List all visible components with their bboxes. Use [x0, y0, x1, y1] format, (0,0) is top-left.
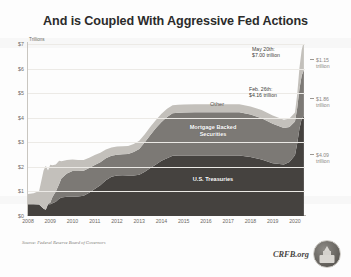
- slide-canvas: And is Coupled With Aggressive Fed Actio…: [0, 0, 351, 277]
- gridline: [28, 69, 305, 70]
- annotation-may-total: May 20th: $7.00 trillion: [252, 46, 298, 59]
- chart-canvas: [28, 44, 305, 216]
- x-axis-tick: 2015: [178, 218, 190, 224]
- gridline: [28, 142, 305, 143]
- y-axis-tick: $1: [18, 188, 24, 194]
- page-title: And is Coupled With Aggressive Fed Actio…: [0, 14, 351, 28]
- source-note: Source: Federal Reserve Board of Governo…: [22, 240, 105, 245]
- capitol-dome-icon: [313, 240, 341, 268]
- x-axis-tick: 2011: [89, 218, 100, 224]
- x-axis-tick: 2020: [289, 218, 301, 224]
- gridline: [28, 191, 305, 192]
- y-axis-tick: $4: [18, 115, 24, 121]
- x-axis-tick: 2010: [67, 218, 79, 224]
- gridline: [28, 167, 305, 168]
- chart-plot-area: [28, 44, 305, 216]
- tick-mbs: [310, 98, 314, 99]
- y-axis-unit-label: Trillions: [29, 37, 45, 42]
- annotation-feb-total: Feb. 26th: $4.16 trillion: [249, 86, 295, 99]
- x-axis-tick: 2012: [111, 218, 123, 224]
- y-axis-tick: $3: [18, 139, 24, 145]
- x-axis: 2008200920102011201220132014201520162017…: [28, 218, 305, 230]
- y-axis: $7$6$5$4$3$2$1$0: [0, 44, 26, 216]
- value-label-us-treasuries: $4.09 trillion: [316, 152, 330, 165]
- x-axis-tick: 2014: [156, 218, 168, 224]
- x-axis-tick: 2017: [222, 218, 234, 224]
- brand-block: CRFB.org: [273, 240, 341, 268]
- gridline: [28, 118, 305, 119]
- x-axis-tick: 2009: [44, 218, 56, 224]
- stacked-area-chart: [28, 44, 305, 216]
- x-axis-tick: 2016: [200, 218, 212, 224]
- x-axis-tick: 2019: [267, 218, 279, 224]
- tick-other: [310, 59, 314, 60]
- x-axis-tick: 2018: [245, 218, 257, 224]
- x-axis-tick: 2013: [133, 218, 145, 224]
- brand-name: CRFB.org: [273, 250, 309, 259]
- x-axis-tick: 2008: [22, 218, 34, 224]
- y-axis-tick: $7: [18, 41, 24, 47]
- gridline: [28, 44, 305, 45]
- y-axis-tick: $6: [18, 66, 24, 72]
- y-axis-tick: $2: [18, 164, 24, 170]
- value-label-other: $1.15 trillion: [316, 57, 330, 70]
- y-axis-tick: $5: [18, 90, 24, 96]
- value-label-mortgage-backed-securities: $1.86 trillion: [316, 96, 330, 109]
- tick-treasuries: [310, 154, 314, 155]
